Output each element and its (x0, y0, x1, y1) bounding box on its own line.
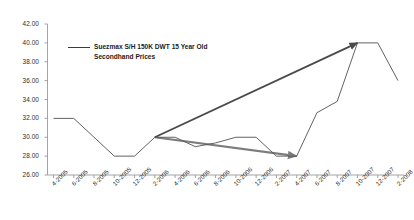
y-tick-label: 30.00 (5, 133, 39, 140)
y-tick-label: 38.00 (5, 58, 39, 65)
chart-container: 42.0040.0038.0036.0034.0032.0030.0028.00… (0, 0, 414, 220)
y-tick-label: 42.00 (5, 20, 39, 27)
y-tick-label: 26.00 (5, 171, 39, 178)
y-tick-label: 34.00 (5, 96, 39, 103)
chart-legend: Suezmax S/H 150K DWT 15 Year Old Secondh… (68, 42, 222, 62)
y-tick-label: 28.00 (5, 152, 39, 159)
legend-label: Suezmax S/H 150K DWT 15 Year Old Secondh… (94, 42, 222, 62)
y-tick-label: 32.00 (5, 114, 39, 121)
y-tick-label: 40.00 (5, 39, 39, 46)
chart-plot-area (0, 0, 414, 220)
y-tick-label: 36.00 (5, 77, 39, 84)
legend-line-swatch (68, 47, 90, 48)
